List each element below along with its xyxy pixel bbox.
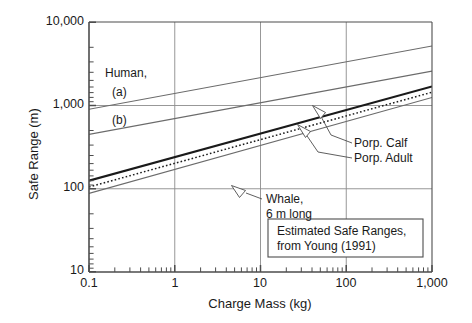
y-tick-label-100: 100 <box>63 180 84 194</box>
annotation-human-b: (b) <box>112 113 127 127</box>
y-axis-title: Safe Range (m) <box>26 108 41 200</box>
y-tick-label-10000: 10,000 <box>46 14 84 28</box>
y-tick-label-1000: 1,000 <box>53 97 84 111</box>
x-tick-label-1: 1 <box>172 276 179 290</box>
x-tick-label-0.1: 0.1 <box>80 276 97 290</box>
annotation-porp-adult: Porp. Adult <box>354 151 413 165</box>
annotation-human-a: (a) <box>112 85 127 99</box>
x-tick-label-100: 100 <box>336 276 357 290</box>
x-axis-title: Charge Mass (kg) <box>208 296 311 311</box>
caption-line1: Estimated Safe Ranges, <box>277 224 406 239</box>
caption-line2: from Young (1991) <box>277 239 376 254</box>
annotation-human: Human, <box>105 66 147 80</box>
y-tick-label-10: 10 <box>70 263 84 277</box>
annotation-whale-line2: 6 m long <box>266 207 312 221</box>
annotation-porp-calf: Porp. Calf <box>354 136 407 150</box>
annotation-whale-line1: Whale, <box>266 192 303 206</box>
chart-figure: 10,000 1,000 100 10 0.1 1 10 100 1,000 C… <box>0 0 472 323</box>
x-tick-label-10: 10 <box>253 276 267 290</box>
x-tick-label-1000: 1,000 <box>416 276 447 290</box>
